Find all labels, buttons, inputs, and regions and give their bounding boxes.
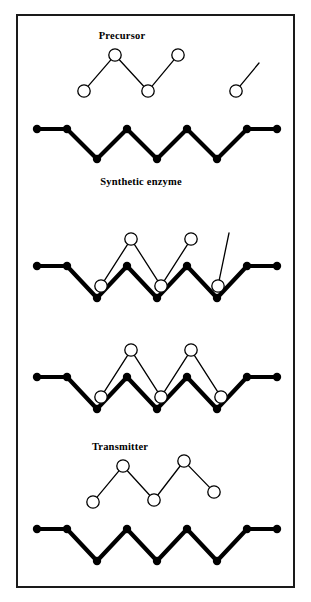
precursor-chain-node <box>142 85 154 97</box>
precursor-chain-node <box>78 85 90 97</box>
transmitter-chain-bond <box>157 466 180 496</box>
diagram-frame: PrecursorSynthetic enzymeTransmitter <box>16 14 295 588</box>
precursor-chain-bond <box>152 59 175 86</box>
transmitter-chain-bond <box>127 470 150 496</box>
enzyme-node <box>153 155 161 163</box>
free-fragment-node <box>230 85 242 97</box>
transmitter-chain-node <box>185 344 197 356</box>
enzyme-node <box>123 125 131 133</box>
label-transmitter: Transmitter <box>92 441 148 452</box>
transmitter-chain-node <box>155 391 167 403</box>
enzyme-node <box>183 525 191 533</box>
enzyme-node <box>33 525 41 533</box>
enzyme-node <box>153 405 161 413</box>
precursor-chain-node <box>95 280 107 292</box>
precursor-chain-node <box>125 233 137 245</box>
enzyme-node <box>33 125 41 133</box>
precursor-chain-node <box>172 49 184 61</box>
label-precursor: Precursor <box>99 30 146 41</box>
enzyme-node <box>153 294 161 302</box>
enzyme-node <box>63 262 71 270</box>
enzyme-node <box>243 262 251 270</box>
enzyme-node <box>213 155 221 163</box>
enzyme-node <box>93 557 101 565</box>
enzyme-node <box>153 557 161 565</box>
transmitter-chain-bond <box>97 470 120 497</box>
enzyme-node <box>123 262 131 270</box>
enzyme-node <box>123 373 131 381</box>
diagram-canvas: PrecursorSynthetic enzymeTransmitter <box>18 16 293 586</box>
enzyme-node <box>33 262 41 270</box>
fragment-bond <box>219 233 229 280</box>
enzyme-node <box>33 373 41 381</box>
transmitter-chain-bond <box>188 465 210 488</box>
transmitter-chain-node <box>95 391 107 403</box>
enzyme-node <box>63 373 71 381</box>
enzyme-node <box>213 557 221 565</box>
transmitter-chain-node <box>215 391 227 403</box>
precursor-chain-node <box>185 233 197 245</box>
enzyme-node <box>243 125 251 133</box>
transmitter-chain-node <box>208 486 220 498</box>
free-fragment-node <box>212 280 224 292</box>
transmitter-chain-node <box>178 455 190 467</box>
synthetic-enzyme-chain <box>37 129 277 159</box>
precursor-chain-node <box>155 280 167 292</box>
precursor-chain-node <box>109 49 121 61</box>
enzyme-node <box>93 405 101 413</box>
enzyme-node <box>273 525 281 533</box>
enzyme-node <box>273 373 281 381</box>
enzyme-node <box>273 262 281 270</box>
enzyme-node <box>213 294 221 302</box>
enzyme-node <box>243 525 251 533</box>
enzyme-node <box>123 525 131 533</box>
enzyme-node <box>213 405 221 413</box>
enzyme-node <box>243 373 251 381</box>
synthetic-enzyme-chain <box>37 529 277 561</box>
transmitter-chain-node <box>117 460 129 472</box>
precursor-chain-bond <box>88 59 112 86</box>
enzyme-node <box>183 125 191 133</box>
enzyme-node <box>183 262 191 270</box>
enzyme-node <box>93 294 101 302</box>
enzyme-node <box>183 373 191 381</box>
transmitter-chain-node <box>87 496 99 508</box>
precursor-chain-bond <box>119 59 144 87</box>
enzyme-node <box>63 125 71 133</box>
enzyme-node <box>93 155 101 163</box>
label-synthetic_enzyme: Synthetic enzyme <box>100 176 182 187</box>
enzyme-node <box>273 125 281 133</box>
transmitter-chain-node <box>125 344 137 356</box>
transmitter-chain-node <box>148 494 160 506</box>
fragment-bond <box>240 63 259 86</box>
enzyme-node <box>63 525 71 533</box>
